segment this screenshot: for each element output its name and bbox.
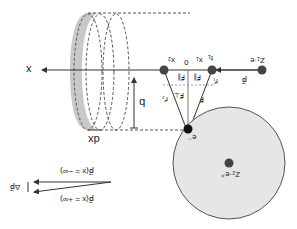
z2-dot: [225, 159, 234, 168]
zero-label: 0: [184, 58, 188, 66]
diagram-canvas: [0, 0, 297, 229]
momentum-diagram: [28, 182, 111, 192]
F-par-label-1: F⃗∥: [177, 74, 185, 81]
x2-dot: [160, 66, 169, 75]
p-label: p⃗: [242, 76, 247, 84]
t1-label: t₁: [208, 54, 213, 62]
F-label: F⃗: [200, 96, 204, 103]
z2e-label: Z₂·e⁺: [221, 170, 240, 178]
dx-label: dx: [88, 134, 100, 145]
F-par-label-2: F⃗∥: [193, 74, 201, 81]
z1-dot: [258, 66, 267, 75]
x1-dot: [208, 66, 217, 75]
delta-p-label: Δp⃗: [10, 183, 20, 191]
p-plus-inf-label: p⃗(x = +∞): [60, 195, 94, 203]
z1e-label: Z₁·e: [250, 56, 265, 64]
x1-label: x₁: [196, 56, 203, 64]
x2-label: x₂: [168, 56, 175, 64]
scattering-diagram: x dx b x₂ 0 x₁ t₁ Z₁·e p⃗ r⃗₁ r⃗₂ F⃗ F⃗∥…: [0, 0, 297, 229]
electron-label: e⁻: [188, 133, 196, 141]
p-minus-inf-label: p⃗(x = −∞): [60, 167, 94, 175]
x-axis-label: x: [26, 64, 32, 75]
cylinder-disk: [70, 13, 190, 130]
r1-label: r⃗₁: [213, 78, 218, 85]
b-label: b: [139, 97, 145, 108]
r2-label: r⃗₂: [162, 96, 168, 103]
F-perp-label: F⃗⊥: [174, 92, 184, 99]
